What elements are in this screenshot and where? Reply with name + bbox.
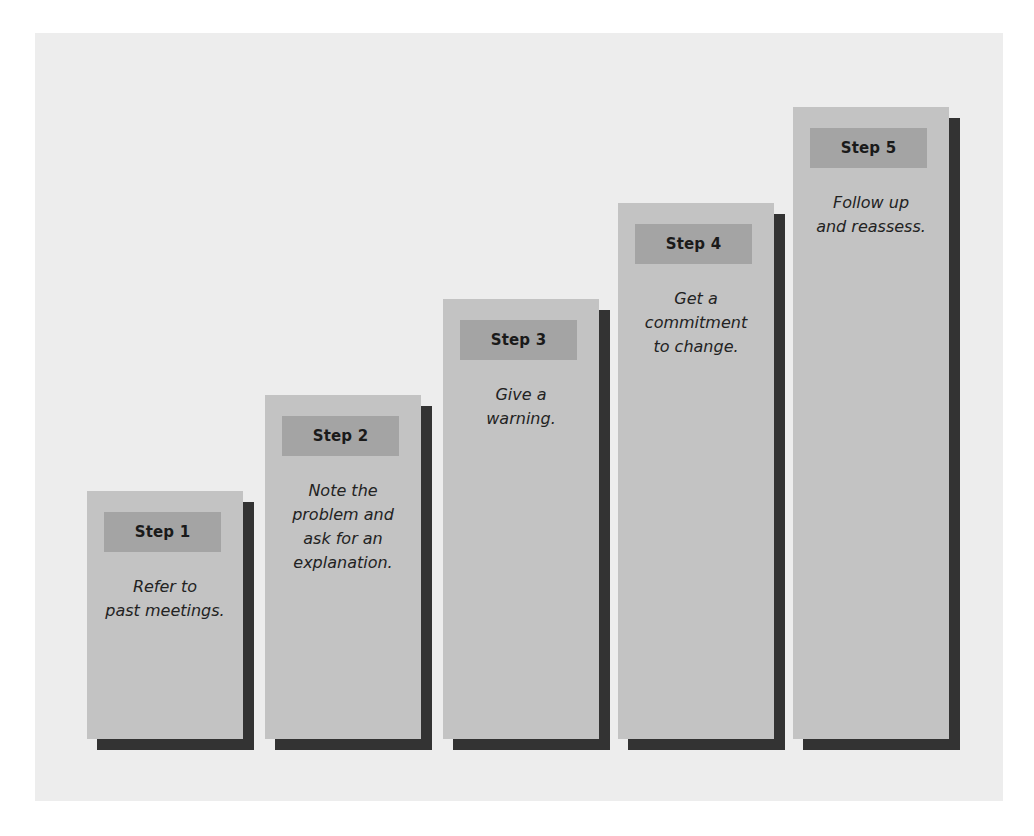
step-label: Step 4 [635,224,752,264]
step-description: Get a commitment to change. [618,287,774,359]
step-2: Step 2 Note the problem and ask for an e… [265,395,421,739]
step-card: Step 1 Refer to past meetings. [87,491,243,739]
step-label: Step 2 [282,416,399,456]
step-card: Step 3 Give a warning. [443,299,599,739]
step-card: Step 5 Follow up and reassess. [793,107,949,739]
step-description: Refer to past meetings. [87,575,243,623]
step-label: Step 3 [460,320,577,360]
step-4: Step 4 Get a commitment to change. [618,203,774,739]
step-description: Give a warning. [443,383,599,431]
step-5: Step 5 Follow up and reassess. [793,107,949,739]
step-card: Step 2 Note the problem and ask for an e… [265,395,421,739]
step-card: Step 4 Get a commitment to change. [618,203,774,739]
step-description: Note the problem and ask for an explanat… [265,479,421,575]
step-label: Step 1 [104,512,221,552]
step-3: Step 3 Give a warning. [443,299,599,739]
step-label: Step 5 [810,128,927,168]
step-description: Follow up and reassess. [793,191,949,239]
step-1: Step 1 Refer to past meetings. [87,491,243,739]
